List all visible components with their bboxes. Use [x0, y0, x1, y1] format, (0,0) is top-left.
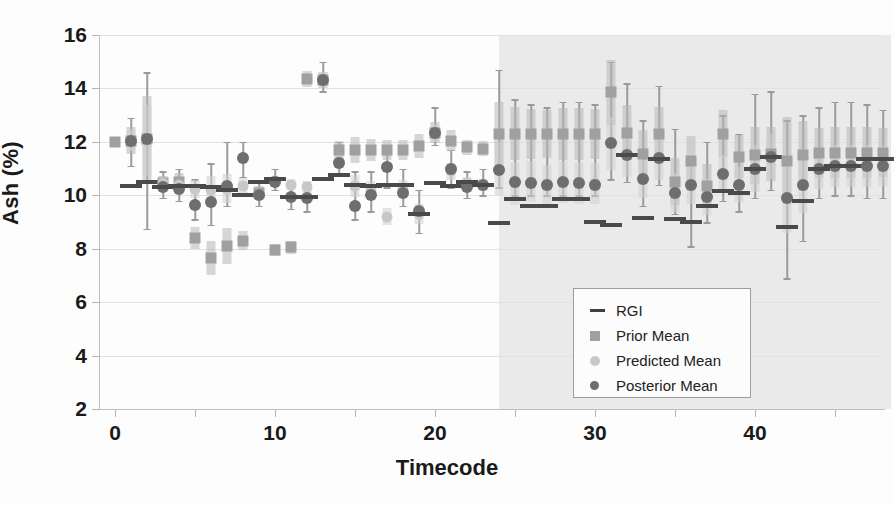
rgi-marker: [600, 223, 622, 227]
prior-mean-marker: [814, 147, 825, 158]
prior-mean-marker: [686, 155, 697, 166]
posterior-mean-marker: [733, 179, 745, 191]
x-tick-mark: [595, 409, 596, 417]
x-tick-mark: [355, 409, 356, 417]
prior-mean-marker: [190, 233, 201, 244]
whisker-cap-bottom: [176, 201, 183, 203]
prior-mean-marker: [846, 147, 857, 158]
whisker-cap-bottom: [464, 198, 471, 200]
posterior-mean-marker: [237, 152, 249, 164]
prior-mean-marker: [398, 144, 409, 155]
whisker-cap-bottom: [784, 278, 791, 280]
legend-label-predicted-mean: Predicted Mean: [616, 352, 721, 369]
whisker-cap-bottom: [816, 198, 823, 200]
x-tick-label: 0: [109, 421, 121, 445]
whisker-cap-top: [176, 169, 183, 171]
whisker-cap-bottom: [880, 198, 887, 200]
rgi-marker: [488, 221, 510, 225]
predicted-mean-marker: [238, 180, 249, 191]
x-tick-label: 10: [263, 421, 286, 445]
prior-mean-marker: [462, 142, 473, 153]
whisker-cap-bottom: [768, 190, 775, 192]
posterior-mean-marker: [669, 187, 681, 199]
posterior-mean-marker: [125, 135, 137, 147]
y-tick-label: 4: [47, 344, 87, 368]
prior-mean-marker: [782, 155, 793, 166]
x-tick-mark: [115, 409, 116, 417]
whisker-cap-top: [368, 171, 375, 173]
legend-item-prior-mean[interactable]: Prior Mean: [590, 323, 750, 348]
prior-mean-marker: [734, 151, 745, 162]
whisker-cap-bottom: [368, 211, 375, 213]
whisker-cap-top: [464, 171, 471, 173]
posterior-mean-marker: [349, 200, 361, 212]
posterior-mean-marker: [205, 196, 217, 208]
whisker-cap-bottom: [640, 206, 647, 208]
posterior-mean-marker: [717, 168, 729, 180]
y-tick-mark: [92, 195, 99, 196]
y-tick-mark: [92, 409, 99, 410]
posterior-mean-marker: [365, 189, 377, 201]
posterior-mean-marker: [189, 199, 201, 211]
whisker-cap-bottom: [224, 206, 231, 208]
posterior-mean-marker: [253, 189, 265, 201]
data-series-layer: [99, 35, 883, 409]
chart-legend: RGI Prior Mean Predicted Mean Posterior …: [573, 288, 751, 398]
posterior-mean-marker: [333, 157, 345, 169]
whisker-cap-bottom: [720, 201, 727, 203]
whisker-cap-bottom: [864, 198, 871, 200]
prior-mean-marker: [350, 144, 361, 155]
whisker-cap-bottom: [128, 166, 135, 168]
whisker-cap-bottom: [272, 190, 279, 192]
posterior-mean-marker: [637, 173, 649, 185]
x-tick-mark: [195, 409, 196, 417]
square-key-icon: [590, 331, 616, 341]
dark-circle-key-icon: [590, 381, 616, 390]
prior-mean-marker: [206, 253, 217, 264]
x-tick-mark: [515, 409, 516, 417]
whisker-cap-top: [208, 163, 215, 165]
prior-mean-marker: [654, 128, 665, 139]
rgi-marker: [408, 212, 430, 216]
rgi-marker: [472, 183, 494, 187]
posterior-mean-marker: [397, 187, 409, 199]
y-tick-label: 2: [47, 397, 87, 421]
whisker-cap-top: [240, 142, 247, 144]
whisker-cap-top: [320, 62, 327, 64]
posterior-mean-marker: [861, 160, 873, 172]
prior-mean-marker: [606, 87, 617, 98]
rgi-marker: [840, 164, 862, 168]
whisker-cap-bottom: [848, 195, 855, 197]
light-circle-key-icon: [590, 356, 616, 366]
rgi-marker: [744, 167, 766, 171]
x-tick-mark: [275, 409, 276, 417]
whisker-cap-top: [224, 142, 231, 144]
legend-label-posterior-mean: Posterior Mean: [616, 377, 718, 394]
whisker-cap-top: [576, 102, 583, 104]
whisker-cap-top: [816, 107, 823, 109]
posterior-mean-marker: [797, 179, 809, 191]
prior-mean-marker: [638, 148, 649, 159]
posterior-mean-marker: [493, 164, 505, 176]
y-tick-label: 8: [47, 237, 87, 261]
whisker-cap-top: [272, 169, 279, 171]
whisker-cap-bottom: [256, 206, 263, 208]
prior-mean-marker: [542, 128, 553, 139]
posterior-mean-marker: [317, 74, 329, 86]
x-tick-mark: [435, 409, 436, 417]
legend-item-rgi[interactable]: RGI: [590, 298, 750, 323]
whisker-cap-bottom: [672, 214, 679, 216]
x-tick-label: 30: [583, 421, 606, 445]
y-tick-mark: [92, 249, 99, 250]
posterior-mean-marker: [557, 176, 569, 188]
legend-item-posterior-mean[interactable]: Posterior Mean: [590, 373, 750, 398]
whisker-cap-bottom: [160, 198, 167, 200]
y-tick-label: 14: [47, 76, 87, 100]
prior-mean-marker: [286, 242, 297, 253]
legend-item-predicted-mean[interactable]: Predicted Mean: [590, 348, 750, 373]
whisker-cap-top: [560, 102, 567, 104]
rgi-marker: [648, 157, 670, 161]
rgi-marker: [696, 204, 718, 208]
whisker-cap-top: [880, 110, 887, 112]
posterior-mean-marker: [141, 133, 153, 145]
